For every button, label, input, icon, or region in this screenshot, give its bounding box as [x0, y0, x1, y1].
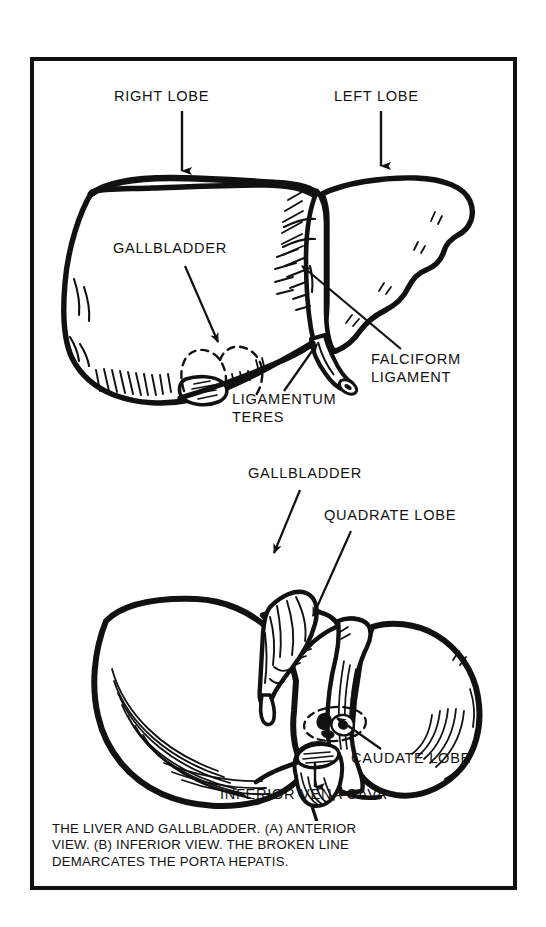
figure-a-anterior-view: RIGHT LOBE LEFT LOBE GALLBLADDER FALCIFO… [64, 88, 473, 425]
label-right-lobe: RIGHT LOBE [114, 88, 209, 104]
label-quadrate-lobe: QUADRATE LOBE [324, 507, 456, 523]
label-falciform-ligament-line2: LIGAMENT [371, 369, 451, 385]
label-gallbladder-anterior: GALLBLADDER [113, 240, 227, 256]
anatomy-illustration: RIGHT LOBE LEFT LOBE GALLBLADDER FALCIFO… [34, 61, 513, 821]
illustration-plate: RIGHT LOBE LEFT LOBE GALLBLADDER FALCIFO… [30, 57, 517, 890]
left-lobe-outline [318, 178, 472, 351]
label-gallbladder-inferior: GALLBLADDER [248, 465, 362, 481]
ivc-lower-tail [312, 806, 317, 821]
leader-quadrate-lobe [313, 531, 351, 616]
leader-gallbladder-inferior [274, 490, 300, 553]
cystic-duct-tip [261, 695, 275, 725]
liver-left-lobe-inferior [351, 624, 480, 796]
caption-text: THE LIVER AND GALLBLADDER. (A) ANTERIOR … [52, 821, 499, 870]
label-caudate-lobe: CAUDATE LOBE [351, 750, 471, 766]
liver-outline-anterior [64, 185, 326, 403]
label-left-lobe: LEFT LOBE [334, 88, 419, 104]
label-ligamentum-teres-line2: TERES [232, 409, 284, 425]
figure-b-inferior-view: GALLBLADDER QUADRATE LOBE CAUDATE LOBE I… [94, 465, 479, 821]
figure-area: RIGHT LOBE LEFT LOBE GALLBLADDER FALCIFO… [34, 61, 513, 821]
label-falciform-ligament-line1: FALCIFORM [371, 351, 461, 367]
label-inferior-vena-cava: INFERIOR VENA CAVA [220, 786, 387, 802]
label-ligamentum-teres-line1: LIGAMENTUM [232, 391, 336, 407]
plate-caption: THE LIVER AND GALLBLADDER. (A) ANTERIOR … [34, 821, 513, 886]
